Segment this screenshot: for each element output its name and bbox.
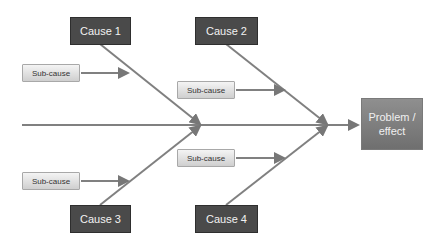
cause-3-box: Cause 3: [70, 205, 131, 233]
cause-4-box: Cause 4: [195, 205, 258, 233]
bone-cause-4: [226, 126, 327, 205]
effect-line-1: Problem /: [368, 110, 415, 124]
cause-1-box: Cause 1: [70, 17, 131, 45]
sub-cause-1-box: Sub-cause: [22, 64, 80, 82]
sub-cause-2-box: Sub-cause: [177, 81, 235, 99]
problem-effect-box: Problem / effect: [361, 98, 423, 150]
cause-2-box: Cause 2: [195, 17, 258, 45]
bone-cause-2: [226, 44, 327, 124]
sub-cause-4-box: Sub-cause: [22, 172, 80, 190]
effect-line-2: effect: [368, 124, 415, 138]
sub-cause-3-box: Sub-cause: [177, 149, 235, 167]
